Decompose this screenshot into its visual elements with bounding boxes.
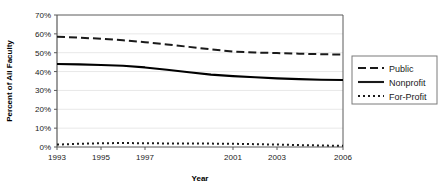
- y-tick-label: 0%: [39, 143, 51, 152]
- legend-label-for-profit: For-Profit: [389, 92, 427, 102]
- y-tick-label: 70%: [35, 11, 51, 20]
- y-axis-ticks: 0%10%20%30%40%50%60%70%: [35, 11, 57, 152]
- legend-label-nonprofit: Nonprofit: [389, 78, 426, 88]
- x-axis-ticks: 199319951997200120032006: [48, 147, 352, 162]
- chart-container: 0%10%20%30%40%50%60%70% 1993199519972001…: [0, 0, 442, 186]
- chart-svg: 0%10%20%30%40%50%60%70% 1993199519972001…: [0, 0, 442, 186]
- x-tick-label: 1993: [48, 153, 66, 162]
- y-tick-label: 10%: [35, 124, 51, 133]
- x-axis-title: Year: [192, 174, 209, 183]
- y-tick-label: 20%: [35, 105, 51, 114]
- x-tick-label: 2003: [268, 153, 286, 162]
- x-tick-label: 2001: [224, 153, 242, 162]
- y-tick-label: 30%: [35, 86, 51, 95]
- legend-label-public: Public: [389, 64, 414, 74]
- x-tick-label: 1997: [136, 153, 154, 162]
- y-axis-title: Percent of All Faculty: [5, 40, 14, 122]
- plot-area-background: [57, 15, 343, 147]
- y-tick-label: 40%: [35, 68, 51, 77]
- x-tick-label: 1995: [92, 153, 110, 162]
- y-tick-label: 50%: [35, 49, 51, 58]
- x-tick-label: 2006: [334, 153, 352, 162]
- y-tick-label: 60%: [35, 30, 51, 39]
- chart-legend: PublicNonprofitFor-Profit: [352, 56, 437, 104]
